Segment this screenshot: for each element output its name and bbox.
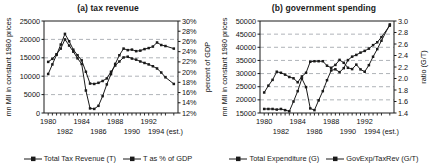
series-marker xyxy=(76,57,79,60)
right-axis-tick-label: 2.8 xyxy=(398,28,408,37)
panel-b-legend: Total Expenditure (G) GovExp/TaxRev (G/T… xyxy=(216,154,432,163)
series-marker xyxy=(296,90,299,93)
series-marker xyxy=(326,64,329,67)
series-marker xyxy=(122,56,125,59)
right-axis-tick-label: 3.0 xyxy=(398,17,408,26)
series-line xyxy=(264,24,390,92)
panel-b-plot: 1500020000250003000035000400004500050000… xyxy=(216,0,432,167)
series-marker xyxy=(160,44,163,47)
left-axis-tick-label: 30000 xyxy=(236,69,256,78)
series-marker xyxy=(85,89,88,92)
right-axis-tick-label: 2.0 xyxy=(398,74,408,83)
left-axis-tick-label: 15000 xyxy=(20,53,40,62)
series-marker xyxy=(64,33,67,36)
series-marker xyxy=(359,51,362,54)
series-marker xyxy=(347,59,350,62)
series-marker xyxy=(131,48,134,51)
series-marker xyxy=(72,50,75,53)
left-axis-tick-label: 20000 xyxy=(236,95,256,104)
right-axis-title: percent of GDP xyxy=(203,42,212,92)
right-axis-tick-label: 30% xyxy=(182,17,197,26)
series-marker xyxy=(55,53,58,56)
right-axis-tick-label: 20% xyxy=(182,68,197,77)
series-marker xyxy=(347,67,350,70)
series-marker xyxy=(263,108,266,111)
series-marker xyxy=(267,108,270,111)
left-axis-title: mn MIl in constant 1980 prices xyxy=(4,17,13,116)
series-marker xyxy=(147,47,150,50)
series-marker xyxy=(271,108,274,111)
series-marker xyxy=(135,58,138,61)
x-axis-tick-label-top: 1992 xyxy=(141,117,157,126)
series-marker xyxy=(301,77,304,80)
left-axis-tick-label: 15000 xyxy=(236,109,256,118)
right-axis-tick-label: 18% xyxy=(182,78,197,87)
series-marker xyxy=(164,76,167,79)
series-marker xyxy=(173,83,176,86)
series-marker xyxy=(276,70,279,73)
series-marker xyxy=(368,47,371,50)
series-marker xyxy=(372,44,375,47)
right-axis-tick-label: 22% xyxy=(182,57,197,66)
legend-marker-line-square-icon xyxy=(229,155,247,163)
series-marker xyxy=(359,68,362,71)
series-marker xyxy=(368,64,371,67)
x-axis-tick-label-bottom: 1986 xyxy=(306,127,322,136)
series-marker xyxy=(292,77,295,80)
series-marker xyxy=(139,60,142,63)
series-marker xyxy=(135,50,138,53)
x-axis-tick-label-top: 1980 xyxy=(256,117,272,126)
series-marker xyxy=(127,49,130,52)
series-marker xyxy=(156,41,159,44)
chart-panel-government-spending: (b) government spending 1500020000250003… xyxy=(216,0,432,167)
series-marker xyxy=(313,109,316,112)
series-marker xyxy=(152,65,155,68)
series-marker xyxy=(288,110,291,113)
series-marker xyxy=(106,77,109,80)
series-marker xyxy=(106,83,109,86)
right-axis-tick-label: 28% xyxy=(182,27,197,36)
series-marker xyxy=(101,95,104,98)
x-axis-tick-label-bottom: 1990 xyxy=(340,127,356,136)
right-axis-tick-label: 2.4 xyxy=(398,51,408,60)
series-marker xyxy=(313,60,316,63)
series-marker xyxy=(292,100,295,103)
series-marker xyxy=(305,72,308,75)
series-marker xyxy=(152,45,155,48)
legend-label-govexp-taxrev: GovExp/TaxRev (G/T) xyxy=(346,154,418,163)
x-axis-tick-label-bottom: 1982 xyxy=(57,127,73,136)
legend-marker-line-square-icon xyxy=(123,155,141,163)
series-marker xyxy=(363,70,366,73)
legend-label-total-tax-revenue: Total Tax Revenue (T) xyxy=(44,154,116,163)
series-marker xyxy=(110,73,113,76)
series-marker xyxy=(338,59,341,62)
series-marker xyxy=(131,57,134,60)
legend-label-t-as-pct-gdp: T as % of GDP xyxy=(143,154,192,163)
series-marker xyxy=(309,107,312,110)
series-marker xyxy=(330,67,333,70)
right-axis-tick-label: 14% xyxy=(182,98,197,107)
left-axis-tick-label: 10000 xyxy=(20,72,40,81)
series-marker xyxy=(322,90,325,93)
series-marker xyxy=(101,80,104,83)
legend-label-total-expenditure: Total Expenditure (G) xyxy=(249,154,319,163)
series-marker xyxy=(280,108,283,111)
series-marker xyxy=(173,47,176,50)
data-series-2 xyxy=(47,38,175,110)
series-marker xyxy=(85,71,88,74)
series-marker xyxy=(47,73,50,76)
series-marker xyxy=(296,81,299,84)
series-marker xyxy=(276,108,279,111)
series-marker xyxy=(122,47,125,50)
right-axis-tick-label: 26% xyxy=(182,37,197,46)
series-marker xyxy=(334,64,337,67)
left-axis-tick-label: 50000 xyxy=(236,17,256,26)
series-marker xyxy=(309,60,312,63)
legend-item-govexp-taxrev: GovExp/TaxRev (G/T) xyxy=(326,154,418,163)
series-marker xyxy=(97,82,100,85)
series-marker xyxy=(80,59,83,62)
series-marker xyxy=(355,63,358,66)
x-axis-tick-label-bottom: 1982 xyxy=(273,127,289,136)
series-marker xyxy=(263,91,266,94)
left-axis-tick-label: 20000 xyxy=(20,35,40,44)
